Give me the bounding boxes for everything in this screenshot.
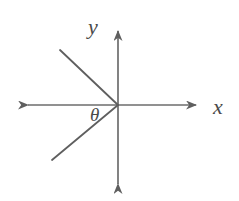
ray-lower-left (52, 105, 118, 160)
y-axis-label: y (88, 16, 98, 38)
x-axis-label: x (213, 96, 223, 118)
ray-upper-left (60, 50, 118, 105)
coordinate-axes-svg (0, 0, 239, 201)
angle-theta-label: θ (90, 105, 99, 124)
coordinate-diagram: y x θ (0, 0, 239, 201)
